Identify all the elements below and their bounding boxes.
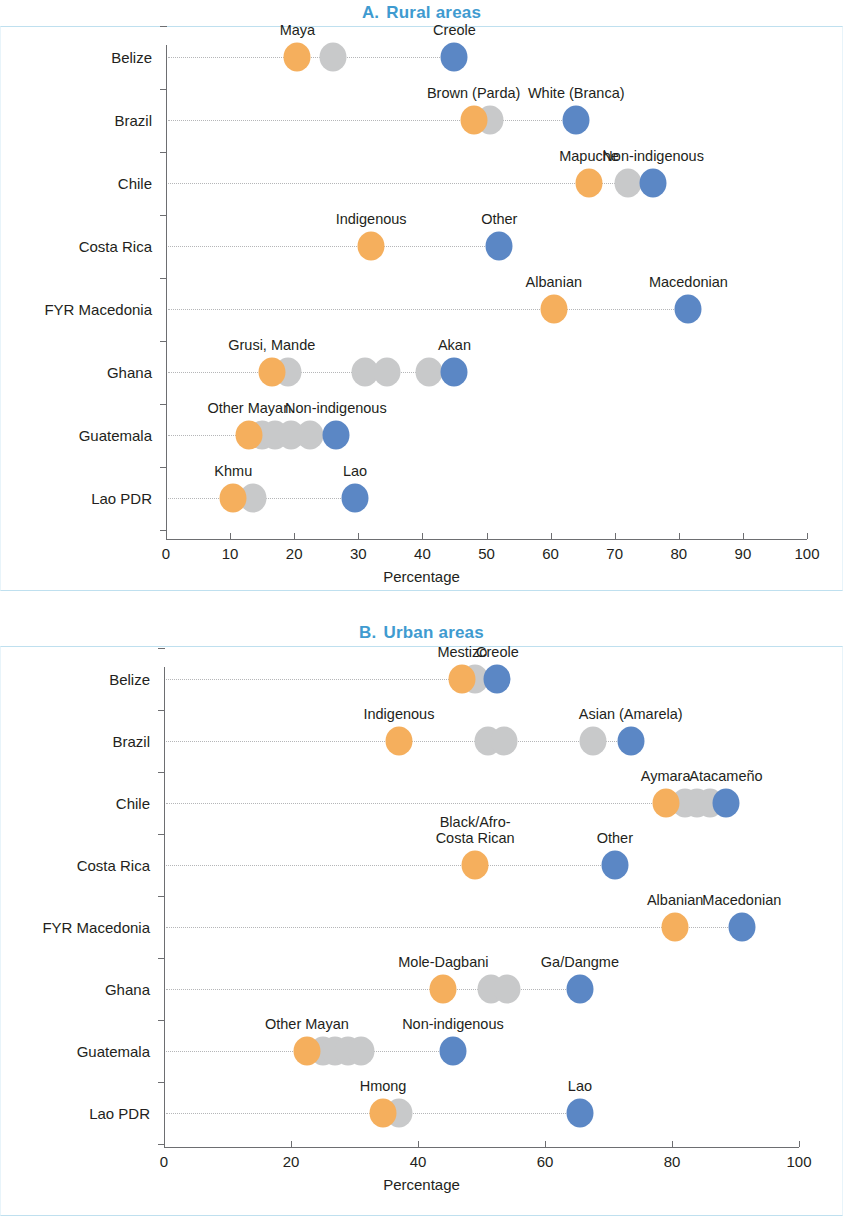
data-point-gray	[415, 358, 442, 387]
x-axis-tick	[358, 533, 359, 539]
x-axis-tick-label: 10	[222, 545, 239, 562]
data-point-label: Lao	[568, 1078, 592, 1094]
data-point-blue	[486, 232, 513, 261]
data-point-gray	[347, 1037, 374, 1066]
row-guide-line	[166, 865, 615, 866]
data-point-orange	[449, 665, 476, 694]
y-axis-tick	[158, 1082, 165, 1083]
data-point-blue	[439, 1037, 466, 1066]
y-axis-tick	[160, 404, 167, 405]
y-axis-tick	[158, 834, 165, 835]
panel-b-title: B.Urban areas	[0, 620, 843, 646]
data-point-orange	[540, 295, 567, 324]
data-point-label: Akan	[438, 337, 471, 353]
data-point-label: Grusi, Mande	[228, 337, 315, 353]
x-axis-tick	[679, 533, 680, 539]
category-label-guatemala: Guatemala	[1, 1043, 150, 1060]
data-point-orange	[220, 484, 247, 513]
x-axis-tick	[422, 533, 423, 539]
data-point-orange	[293, 1037, 320, 1066]
x-axis-tick-label: 30	[350, 545, 367, 562]
data-point-gray	[493, 975, 520, 1004]
data-point-blue	[441, 43, 468, 72]
data-point-blue	[342, 484, 369, 513]
data-point-blue	[675, 295, 702, 324]
x-axis-tick	[615, 533, 616, 539]
x-axis-tick-label: 90	[735, 545, 752, 562]
data-point-orange	[385, 727, 412, 756]
data-point-label: Asian (Amarela)	[579, 706, 683, 722]
y-axis-tick	[158, 958, 165, 959]
data-point-label: Creole	[433, 22, 476, 38]
data-point-blue	[617, 727, 644, 756]
x-axis-title: Percentage	[1, 568, 842, 585]
data-point-orange	[652, 789, 679, 818]
category-label-belize: Belize	[1, 49, 152, 66]
data-point-label: Albanian	[647, 892, 703, 908]
category-label-ghana: Ghana	[1, 364, 152, 381]
x-axis-tick	[487, 533, 488, 539]
data-point-label: Other Mayan	[207, 400, 291, 416]
x-axis-tick-label: 20	[286, 545, 303, 562]
category-label-guatemala: Guatemala	[1, 427, 152, 444]
data-point-blue	[728, 913, 755, 942]
data-point-label: Brown (Parda)	[427, 85, 520, 101]
row-guide-line	[168, 57, 454, 58]
x-axis-tick	[551, 533, 552, 539]
y-axis-tick	[160, 26, 167, 27]
y-axis-line	[164, 667, 165, 1147]
x-axis-tick-label: 20	[283, 1153, 300, 1170]
data-point-label: Macedonian	[702, 892, 781, 908]
data-point-blue	[566, 1099, 593, 1128]
data-point-blue	[441, 358, 468, 387]
x-axis-tick-label: 100	[786, 1153, 811, 1170]
data-point-label: Indigenous	[336, 211, 407, 227]
category-label-ghana: Ghana	[1, 981, 150, 998]
x-axis-tick	[672, 1141, 673, 1147]
data-point-label: Maya	[280, 22, 315, 38]
data-point-label: White (Branca)	[528, 85, 625, 101]
x-axis-tick-label: 60	[537, 1153, 554, 1170]
data-point-orange	[258, 358, 285, 387]
data-point-label: Albanian	[526, 274, 582, 290]
x-axis-tick	[294, 533, 295, 539]
data-point-label: Mole-Dagbani	[398, 954, 488, 970]
y-axis-tick	[158, 648, 165, 649]
x-axis-tick-label: 0	[160, 1153, 168, 1170]
row-guide-line	[166, 679, 497, 680]
data-point-blue	[601, 851, 628, 880]
data-point-label: Khmu	[214, 463, 252, 479]
data-point-orange	[460, 106, 487, 135]
row-guide-line	[166, 927, 742, 928]
row-guide-line	[168, 309, 688, 310]
x-axis-tick-label: 50	[478, 545, 495, 562]
data-point-label: Non-indigenous	[602, 148, 704, 164]
x-axis-tick	[799, 1141, 800, 1147]
y-axis-tick	[158, 772, 165, 773]
data-point-label: Other	[597, 830, 633, 846]
x-axis-tick	[291, 1141, 292, 1147]
x-axis-tick	[230, 533, 231, 539]
x-axis-line	[164, 1147, 799, 1148]
x-axis-tick-label: 80	[664, 1153, 681, 1170]
row-guide-line	[168, 120, 576, 121]
x-axis-line	[166, 539, 807, 540]
plot-frame-urban: 020406080100PercentageBelizeMestizoCreol…	[0, 646, 843, 1216]
panel-rural: A.Rural areas 0102030405060708090100Perc…	[0, 0, 843, 591]
category-label-lao-pdr: Lao PDR	[1, 1105, 150, 1122]
x-axis-tick-label: 60	[542, 545, 559, 562]
row-guide-line	[168, 246, 499, 247]
data-point-gray	[614, 169, 641, 198]
data-point-blue	[322, 421, 349, 450]
category-label-lao-pdr: Lao PDR	[1, 490, 152, 507]
category-label-belize: Belize	[1, 671, 150, 688]
plot-area-rural: 0102030405060708090100PercentageBelizeMa…	[1, 27, 842, 590]
data-point-orange	[462, 851, 489, 880]
y-axis-tick	[158, 710, 165, 711]
panel-b-title-text: Urban areas	[383, 623, 483, 642]
data-point-orange	[284, 43, 311, 72]
data-point-orange	[370, 1099, 397, 1128]
y-axis-line	[166, 45, 167, 539]
data-point-gray	[490, 727, 517, 756]
x-axis-tick	[743, 533, 744, 539]
